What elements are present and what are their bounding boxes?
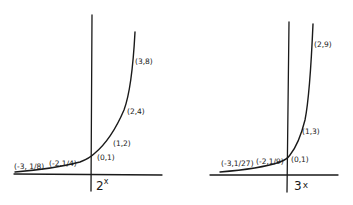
y-axis [287,22,289,192]
exponential-curve-2x [15,32,135,172]
x-axis [14,174,162,175]
function-label: 2x [96,177,109,193]
point-label: (1,2) [113,139,131,148]
function-label: 3x [294,179,309,193]
point-label: (2,4) [127,107,145,116]
point-label: (-3, 1/8) [14,162,44,171]
exponential-curve-3x [220,24,313,172]
y-axis [91,15,92,191]
graph-3x: (-3,1/27) (-2,1/9) (0,1) (1,3) (2,9) 3x [210,22,338,193]
point-label: (3,8) [135,57,153,66]
graph-2x: (-3, 1/8) (-2,1/4) (0,1) (1,2) (2,4) (3,… [14,15,162,193]
point-label: (-3,1/27) [221,159,254,168]
point-label: (0,1) [291,155,309,164]
point-label: (0,1) [97,153,115,162]
point-label: (-2,1/9) [256,157,284,166]
exponential-graphs-diagram: (-3, 1/8) (-2,1/4) (0,1) (1,2) (2,4) (3,… [0,0,353,205]
point-label: (-2,1/4) [49,159,77,168]
point-label: (1,3) [302,127,320,136]
point-label: (2,9) [314,40,332,49]
